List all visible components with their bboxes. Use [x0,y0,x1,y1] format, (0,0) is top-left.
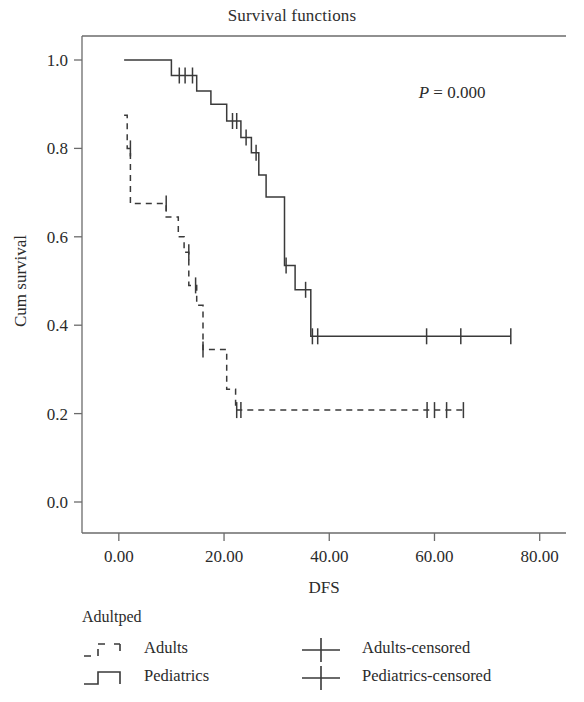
survival-curves [124,60,511,410]
x-tick-label: 60.00 [415,547,453,566]
p-value-symbol: P [418,83,429,102]
x-tick-label: 0.00 [104,547,134,566]
legend-swatch-adults-dashed-step [82,636,138,662]
p-value-number: = 0.000 [429,83,485,102]
y-axis-title: Cum survival [11,235,30,327]
p-value-annotation: P = 0.000 [418,83,486,102]
legend-swatch-pediatrics-censored-plus-icon [300,664,356,690]
legend-swatch-adults-censored-plus-icon [300,636,356,662]
legend-label-adults-censored: Adults-censored [362,638,470,658]
x-tick-label: 40.00 [310,547,348,566]
legend-swatch-pediatrics-solid-step [82,664,138,690]
x-tick-label: 20.00 [205,547,243,566]
legend: Adultped Adults Pediatrics Adults-censor… [70,608,570,700]
censor-marks [130,68,510,419]
y-tick-label: 0.6 [47,228,68,247]
legend-title: Adultped [82,608,142,626]
y-tick-label: 1.0 [47,51,68,70]
y-tick-label: 0.0 [47,493,68,512]
survival-chart-figure: Survival functions 0.00.20.40.60.81.00.0… [0,0,584,702]
annotations: P = 0.000 [418,83,486,102]
axis-labels: 0.00.20.40.60.81.00.0020.0040.0060.0080.… [11,51,559,597]
plot-area: 0.00.20.40.60.81.00.0020.0040.0060.0080.… [0,0,584,600]
x-axis-title: DFS [308,578,339,597]
x-tick-label: 80.00 [521,547,559,566]
legend-label-adults: Adults [144,638,188,658]
y-tick-label: 0.4 [47,316,69,335]
plot-frame [82,36,566,533]
axis-ticks [74,60,540,541]
survival-curve-adults [124,115,463,410]
y-tick-label: 0.2 [47,405,68,424]
legend-label-pediatrics-censored: Pediatrics-censored [362,666,491,686]
y-tick-label: 0.8 [47,139,68,158]
legend-label-pediatrics: Pediatrics [144,666,209,686]
